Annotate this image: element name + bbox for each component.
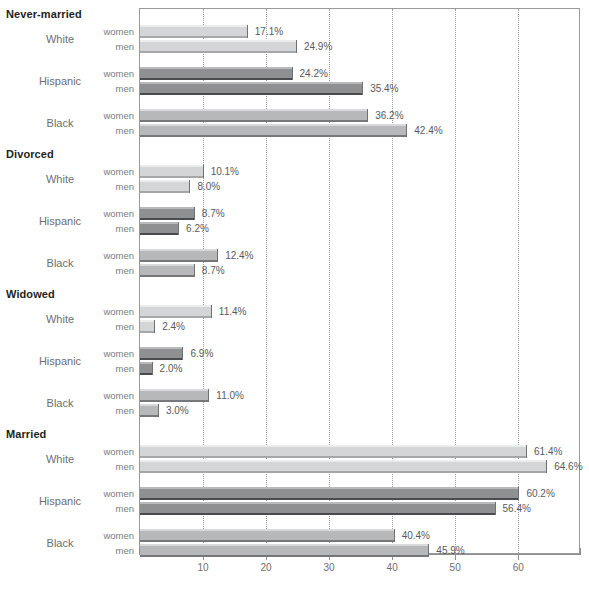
bar-row: men56.4% [0, 501, 589, 516]
bar-value-label: 24.2% [295, 66, 328, 81]
series-label-men: men [54, 39, 134, 54]
bar-face [140, 447, 526, 456]
bar [140, 445, 527, 458]
bar-shadow [140, 260, 217, 262]
bar-row: women61.4% [0, 444, 589, 459]
x-tick-label-50: 50 [450, 562, 461, 573]
bar-shadow [140, 36, 247, 38]
bar [140, 529, 395, 542]
bar [140, 320, 155, 333]
bar-face [140, 84, 362, 93]
bar-row: men24.9% [0, 39, 589, 54]
bar-value-label: 45.9% [431, 543, 464, 558]
bar-value-label: 10.1% [206, 164, 239, 179]
bar [140, 347, 183, 360]
bar-row: men3.0% [0, 403, 589, 418]
bar-value-label: 8.0% [192, 179, 220, 194]
bar-shadow [140, 78, 292, 80]
bar-value-label: 61.4% [529, 444, 562, 459]
bar-value-label: 12.4% [220, 248, 253, 263]
bar [140, 124, 407, 137]
bar-value-label: 36.2% [370, 108, 403, 123]
bar [140, 67, 293, 80]
bar [140, 264, 195, 277]
bar-row: women12.4% [0, 248, 589, 263]
bar-row: men2.4% [0, 319, 589, 334]
bar-shadow [140, 373, 152, 375]
bar-face [140, 546, 428, 555]
bar-face [140, 111, 367, 120]
bar-row: men8.0% [0, 179, 589, 194]
series-label-women: women [54, 206, 134, 221]
bar-value-label: 56.4% [498, 501, 531, 516]
bar-shadow [140, 176, 203, 178]
bar-row: women8.7% [0, 206, 589, 221]
bar-face [140, 209, 194, 218]
bar [140, 207, 195, 220]
bar-row: women36.2% [0, 108, 589, 123]
x-tick-label-60: 60 [513, 562, 524, 573]
bar-value-label: 17.1% [250, 24, 283, 39]
bar-shadow [140, 51, 296, 53]
bar-row: women17.1% [0, 24, 589, 39]
bar [140, 109, 368, 122]
bar-face [140, 224, 178, 233]
bar [140, 389, 209, 402]
bar-row: women6.9% [0, 346, 589, 361]
x-tick-label-20: 20 [261, 562, 272, 573]
bar-row: men42.4% [0, 123, 589, 138]
bar-shadow [140, 415, 158, 417]
bar-row: women24.2% [0, 66, 589, 81]
bar-face [140, 322, 154, 331]
bar [140, 82, 363, 95]
bar-face [140, 462, 546, 471]
bar-shadow [140, 471, 546, 473]
bar-row: men64.6% [0, 459, 589, 474]
bar-value-label: 64.6% [549, 459, 582, 474]
series-label-men: men [54, 263, 134, 278]
series-label-men: men [54, 179, 134, 194]
bar-shadow [140, 135, 406, 137]
series-label-men: men [54, 543, 134, 558]
bar-shadow [140, 513, 495, 515]
bar-face [140, 251, 217, 260]
bar [140, 460, 547, 473]
bar-row: women60.2% [0, 486, 589, 501]
bar-row: men35.4% [0, 81, 589, 96]
bar-value-label: 3.0% [161, 403, 189, 418]
bar-face [140, 406, 158, 415]
bar-value-label: 35.4% [365, 81, 398, 96]
bar-row: women10.1% [0, 164, 589, 179]
bar-value-label: 8.7% [197, 206, 225, 221]
series-label-women: women [54, 304, 134, 319]
series-label-men: men [54, 81, 134, 96]
bar [140, 222, 179, 235]
bar-value-label: 60.2% [521, 486, 554, 501]
series-label-women: women [54, 528, 134, 543]
bar-shadow [140, 540, 394, 542]
bar-face [140, 531, 394, 540]
bar-shadow [140, 400, 208, 402]
bar [140, 487, 519, 500]
bar-row: men45.9% [0, 543, 589, 558]
series-label-men: men [54, 501, 134, 516]
series-label-men: men [54, 221, 134, 236]
series-label-women: women [54, 346, 134, 361]
bar-row: women11.0% [0, 388, 589, 403]
bar-value-label: 6.2% [181, 221, 209, 236]
bar [140, 404, 159, 417]
bar-shadow [140, 120, 367, 122]
bar-face [140, 391, 208, 400]
bar-shadow [140, 233, 178, 235]
series-label-women: women [54, 248, 134, 263]
bar-row: men2.0% [0, 361, 589, 376]
section-title-widowed: Widowed [6, 288, 55, 300]
bar-face [140, 364, 152, 373]
bar-shadow [140, 275, 194, 277]
bar-face [140, 42, 296, 51]
bar-value-label: 2.0% [155, 361, 183, 376]
series-label-men: men [54, 319, 134, 334]
x-tick-label-30: 30 [324, 562, 335, 573]
series-label-women: women [54, 164, 134, 179]
bar [140, 165, 204, 178]
